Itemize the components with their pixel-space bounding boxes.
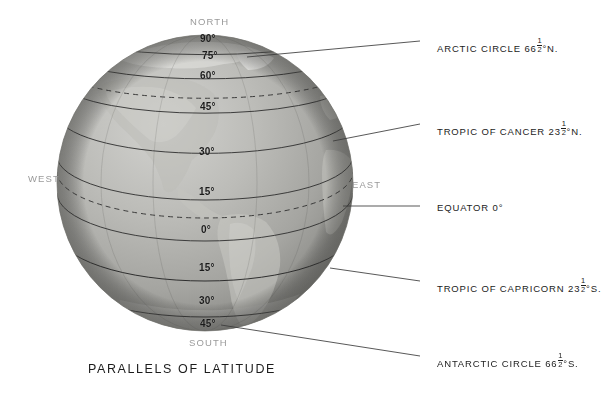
callout-text-arctic-circle: ARCTIC CIRCLE 66 (437, 43, 537, 54)
latitude-label-south-7: 15° (199, 262, 215, 273)
cardinal-label-south: SOUTH (189, 337, 228, 348)
cardinal-label-east: EAST (352, 179, 381, 190)
callout-suffix-tropic-of-capricorn: °S. (586, 283, 601, 294)
callout-arctic-circle: ARCTIC CIRCLE 6612°N. (437, 37, 558, 54)
fraction-denominator: 2 (581, 286, 586, 294)
latitude-label-north-5: 15° (199, 186, 215, 197)
callout-suffix-tropic-of-cancer: °N. (567, 126, 583, 137)
leader-line-tropic-of-cancer (333, 124, 420, 141)
callout-text-tropic-of-cancer: TROPIC OF CANCER 23 (437, 126, 561, 137)
latitude-label-south-8: 30° (199, 295, 215, 306)
latitude-label-equator-6: 0° (201, 224, 211, 235)
cardinal-label-north: NORTH (190, 16, 229, 27)
callout-equator: EQUATOR 0° (437, 202, 503, 213)
globe (57, 35, 354, 361)
leader-line-antarctic-circle (221, 325, 420, 356)
callout-suffix-arctic-circle: °N. (542, 43, 558, 54)
fraction-denominator: 2 (561, 129, 566, 137)
leader-line-tropic-of-capricorn (330, 268, 420, 281)
cardinal-label-west: WEST (28, 173, 60, 184)
leader-line-arctic-circle (247, 41, 420, 57)
callout-text-antarctic-circle: ANTARCTIC CIRCLE 66 (437, 358, 558, 369)
globe-figure (0, 0, 614, 397)
callout-antarctic-circle: ANTARCTIC CIRCLE 6612°S. (437, 352, 579, 369)
callout-fraction-tropic-of-cancer: 12 (561, 120, 566, 136)
latitude-label-north-1: 75° (202, 50, 218, 61)
latitude-label-south-9: 45° (200, 318, 216, 329)
latitude-label-north-2: 60° (200, 70, 216, 81)
callout-text-tropic-of-capricorn: TROPIC OF CAPRICORN 23 (437, 283, 580, 294)
latitude-label-north-4: 30° (199, 146, 215, 157)
callout-tropic-of-cancer: TROPIC OF CANCER 2312°N. (437, 120, 582, 137)
callout-tropic-of-capricorn: TROPIC OF CAPRICORN 2312°S. (437, 277, 601, 294)
callout-text-equator: EQUATOR 0° (437, 202, 503, 213)
latitude-label-north-3: 45° (200, 101, 216, 112)
callout-suffix-antarctic-circle: °S. (563, 358, 578, 369)
callout-fraction-tropic-of-capricorn: 12 (581, 277, 586, 293)
figure-caption: PARALLELS OF LATITUDE (88, 362, 276, 376)
latitude-label-north-0: 90° (200, 33, 216, 44)
